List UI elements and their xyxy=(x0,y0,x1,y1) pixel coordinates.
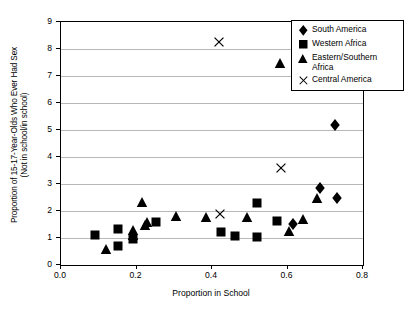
x-tick-label-0.0: 0.0 xyxy=(40,271,80,280)
y-tick-label-1: 1 xyxy=(30,233,52,242)
legend-item-label: South America xyxy=(310,25,366,35)
gridline-y-5 xyxy=(61,130,363,131)
data-point-triangle xyxy=(137,197,148,207)
y-tick-mark-2 xyxy=(56,210,60,211)
data-point-square xyxy=(114,242,123,251)
legend-item-label: Eastern/Southern Africa xyxy=(310,53,400,72)
y-axis-title-line2: (Not in school/in school) xyxy=(20,47,30,223)
x-tick-label-0.4: 0.4 xyxy=(191,271,231,280)
data-point-square xyxy=(252,198,261,207)
data-point-triangle xyxy=(128,230,139,240)
data-point-square xyxy=(272,217,281,226)
y-tick-label-6: 6 xyxy=(30,98,52,107)
data-point-diamond xyxy=(330,119,340,131)
y-tick-mark-3 xyxy=(56,183,60,184)
data-point-triangle xyxy=(275,58,286,68)
data-point-diamond xyxy=(332,192,342,204)
y-tick-label-3: 3 xyxy=(30,179,52,188)
data-point-square xyxy=(113,224,122,233)
data-point-triangle xyxy=(201,212,212,222)
y-tick-label-2: 2 xyxy=(30,206,52,215)
y-tick-mark-4 xyxy=(56,156,60,157)
data-point-triangle xyxy=(312,193,323,203)
y-tick-mark-6 xyxy=(56,102,60,103)
legend-item-western-africa[interactable]: Western Africa xyxy=(296,39,400,50)
data-point-square xyxy=(90,231,99,240)
y-tick-label-7: 7 xyxy=(30,71,52,80)
legend-item-label: Western Africa xyxy=(310,39,366,49)
y-tick-label-9: 9 xyxy=(30,17,52,26)
x-tick-mark-0.2 xyxy=(136,265,137,269)
data-point-square xyxy=(217,228,226,237)
data-point-square xyxy=(252,233,261,242)
x-tick-mark-0.6 xyxy=(287,265,288,269)
data-point-triangle xyxy=(100,244,111,254)
y-tick-label-5: 5 xyxy=(30,125,52,134)
data-point-square xyxy=(152,218,161,227)
y-tick-mark-1 xyxy=(56,237,60,238)
data-point-triangle xyxy=(142,217,153,227)
scatter-plot-figure: Proportion of 15-17-Year-Olds Who Ever H… xyxy=(0,0,408,312)
x-marker-icon xyxy=(296,75,310,86)
y-tick-mark-9 xyxy=(56,21,60,22)
y-tick-mark-7 xyxy=(56,75,60,76)
legend-item-label: Central America xyxy=(310,75,372,85)
y-tick-mark-8 xyxy=(56,48,60,49)
x-tick-mark-0.8 xyxy=(362,265,363,269)
x-tick-label-0.6: 0.6 xyxy=(267,271,307,280)
y-tick-label-0: 0 xyxy=(30,260,52,269)
legend-item-central-america[interactable]: Central America xyxy=(296,75,400,86)
data-point-x xyxy=(275,163,286,174)
data-point-triangle xyxy=(241,212,252,222)
data-point-triangle xyxy=(284,226,295,236)
data-point-square xyxy=(231,231,240,240)
legend-item-eastern-southern-africa[interactable]: Eastern/Southern Africa xyxy=(296,53,400,72)
legend-item-south-america[interactable]: South America xyxy=(296,25,400,36)
data-point-x xyxy=(214,37,225,48)
legend: South AmericaWestern AfricaEastern/South… xyxy=(291,20,404,91)
y-axis-title-line1: Proportion of 15-17-Year-Olds Who Ever H… xyxy=(10,47,19,223)
gridline-y-2 xyxy=(61,211,363,212)
y-tick-label-8: 8 xyxy=(30,44,52,53)
triangle-marker-icon xyxy=(296,53,310,64)
data-point-triangle xyxy=(297,214,308,224)
diamond-marker-icon xyxy=(296,25,310,36)
y-tick-label-4: 4 xyxy=(30,152,52,161)
x-tick-label-0.8: 0.8 xyxy=(342,271,382,280)
x-axis-title: Proportion in School xyxy=(60,288,362,298)
x-tick-mark-0.0 xyxy=(60,265,61,269)
gridline-y-1 xyxy=(61,238,363,239)
data-point-x xyxy=(214,209,225,220)
data-point-triangle xyxy=(171,211,182,221)
gridline-y-6 xyxy=(61,103,363,104)
y-axis-title: Proportion of 15-17-Year-Olds Who Ever H… xyxy=(0,0,40,270)
y-tick-mark-5 xyxy=(56,129,60,130)
square-marker-icon xyxy=(296,39,310,50)
gridline-y-4 xyxy=(61,157,363,158)
x-tick-mark-0.4 xyxy=(211,265,212,269)
x-tick-label-0.2: 0.2 xyxy=(116,271,156,280)
